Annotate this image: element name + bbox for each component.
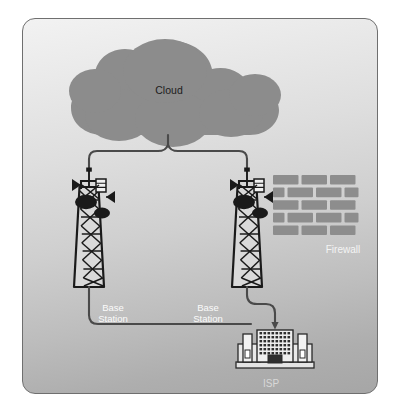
cloud-icon-lobe-e bbox=[69, 69, 121, 113]
base-station-left-label: Base Station bbox=[67, 303, 159, 324]
brick-wall-icon bbox=[273, 175, 359, 235]
tower-mast-cap-right bbox=[244, 168, 250, 172]
cloud-icon-lobe-f bbox=[229, 74, 281, 116]
tower-mast-cap-left bbox=[86, 168, 92, 172]
building-entrance bbox=[268, 355, 282, 363]
tower-sector-antenna-upper-right bbox=[233, 195, 255, 209]
tower-dish-east-left bbox=[106, 191, 115, 203]
isp-node[interactable] bbox=[236, 330, 314, 368]
diagram-panel: Cloud Base Station Base Station Firewall… bbox=[22, 18, 378, 394]
tower-sector-antenna-lower-left bbox=[94, 208, 110, 219]
building-wing-right-window bbox=[300, 350, 305, 358]
tower-sector-antenna-upper-left bbox=[75, 195, 97, 209]
cloud-label: Cloud bbox=[119, 85, 219, 97]
firewall-node[interactable] bbox=[273, 175, 359, 235]
base-station-left-node[interactable] bbox=[72, 168, 115, 288]
bracket-arm-left bbox=[89, 145, 168, 171]
firewall-label: Firewall bbox=[291, 244, 378, 255]
network-topology-diagram bbox=[23, 19, 378, 394]
right-tower-arrowhead bbox=[271, 322, 278, 330]
bracket-arm-right bbox=[168, 145, 247, 171]
base-station-right-label: Base Station bbox=[162, 303, 254, 324]
tower-dish-east-right bbox=[264, 191, 273, 203]
tower-sector-antenna-lower-right bbox=[252, 208, 268, 219]
base-station-right-node[interactable] bbox=[230, 168, 273, 288]
isp-label: ISP bbox=[231, 378, 311, 389]
diagram-stage: Cloud Base Station Base Station Firewall… bbox=[0, 0, 407, 414]
building-wing-left-window bbox=[245, 350, 250, 358]
